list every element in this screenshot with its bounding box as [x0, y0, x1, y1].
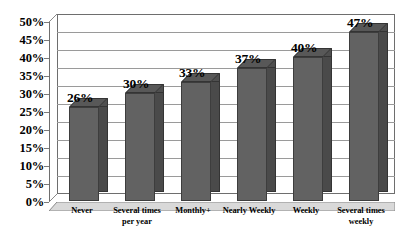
y-axis-tick-label: 15%: [4, 143, 44, 153]
y-axis: 50% 45% 40% 35% 30% 25% 20% 15% 10% 5% 0…: [0, 0, 44, 237]
y-axis-tick-label: 35%: [4, 71, 44, 81]
x-axis-label-line: Weekly: [276, 206, 336, 217]
y-axis-tick-label: 45%: [4, 35, 44, 45]
x-axis-label-monthly-plus: Monthly+: [162, 206, 224, 217]
bar-side-face: [155, 84, 164, 192]
x-axis-label-never: Never: [52, 206, 112, 217]
x-axis-label-weekly: Weekly: [276, 206, 336, 217]
bar-front-face: [293, 57, 323, 201]
bar-value-label: 37%: [235, 51, 261, 67]
bar-side-face: [99, 98, 108, 192]
bar-value-label: 40%: [291, 40, 317, 56]
bar-value-label: 30%: [123, 76, 149, 92]
y-axis-tick-label: 10%: [4, 161, 44, 171]
y-axis-tick-label: 40%: [4, 53, 44, 63]
plot-area: 26% 30% 33% 37% 40% 47%: [49, 14, 395, 210]
y-axis-tick-label: 5%: [4, 179, 44, 189]
y-axis-tick-label: 50%: [4, 17, 44, 27]
bar-side-face: [323, 48, 332, 192]
x-axis-label-line: Never: [52, 206, 112, 217]
x-axis-label-several-times-per-year: Several times per year: [104, 206, 170, 227]
x-axis-label-line: Several times: [104, 206, 170, 217]
y-axis-tick-label: 30%: [4, 89, 44, 99]
x-axis-label-line: Monthly+: [162, 206, 224, 217]
x-axis-label-line: Several times: [328, 206, 394, 217]
bar-side-face: [379, 23, 388, 192]
bar-side-face: [267, 59, 276, 192]
bar-value-label: 47%: [347, 15, 373, 31]
x-axis-label-line: weekly: [328, 217, 394, 228]
bar-chart: 50% 45% 40% 35% 30% 25% 20% 15% 10% 5% 0…: [0, 0, 411, 237]
y-axis-tick-label: 25%: [4, 107, 44, 117]
bar-front-face: [349, 32, 379, 201]
bar-front-face: [181, 82, 211, 201]
bar-front-face: [125, 93, 155, 201]
y-axis-tick-label: 0%: [4, 197, 44, 207]
bar-front-face: [237, 68, 267, 201]
x-axis-label-several-times-weekly: Several times weekly: [328, 206, 394, 227]
x-axis-label-line: per year: [104, 217, 170, 228]
bar-side-face: [211, 73, 220, 192]
bar-value-label: 26%: [67, 90, 93, 106]
bar-front-face: [69, 107, 99, 201]
y-axis-tick-label: 20%: [4, 125, 44, 135]
x-axis-label-line: Nearly Weekly: [216, 206, 282, 217]
x-axis-label-nearly-weekly: Nearly Weekly: [216, 206, 282, 217]
bar-value-label: 33%: [179, 65, 205, 81]
